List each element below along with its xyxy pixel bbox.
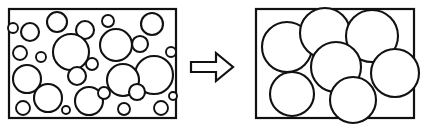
grain-circle (169, 92, 177, 100)
grain-circle (129, 84, 145, 100)
grain-circle (36, 52, 46, 62)
grain-circle (68, 67, 86, 85)
grain-circle (371, 49, 419, 97)
transformation-arrow (191, 53, 233, 81)
grain-coarsening-figure (0, 0, 426, 129)
grain-circle (154, 101, 168, 115)
grain-circle (34, 84, 62, 112)
grain-circle (21, 23, 39, 41)
grain-circle (166, 47, 176, 57)
grain-circle (330, 77, 376, 123)
grain-circle (118, 103, 130, 115)
figure-canvas (0, 0, 426, 129)
grain-circle (102, 15, 114, 27)
grain-circle (86, 58, 98, 70)
grain-circle (100, 29, 132, 61)
grain-circle (141, 13, 163, 35)
transformation-arrow-group (191, 53, 233, 81)
grain-circle (13, 46, 27, 60)
grain-circle (53, 34, 89, 70)
grain-circle (8, 23, 18, 33)
grain-circle (98, 87, 110, 99)
before-microstructure-panel (8, 9, 177, 118)
after-microstructure-panel (256, 8, 419, 123)
grain-circle (132, 36, 148, 52)
grain-circle (270, 72, 314, 116)
grain-circle (47, 12, 67, 32)
grain-circle (62, 106, 70, 114)
grain-circle (16, 101, 30, 115)
